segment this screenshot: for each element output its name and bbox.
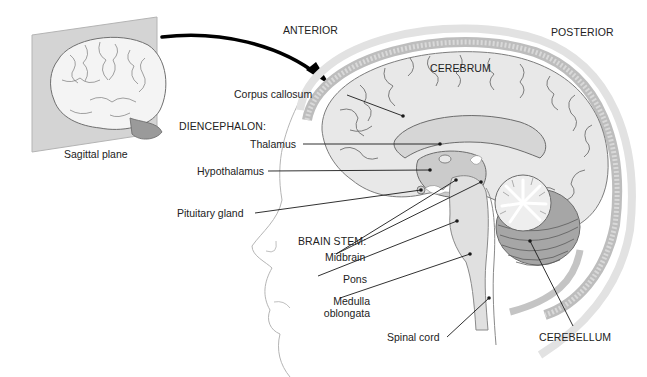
label-thalamus: Thalamus: [250, 138, 296, 150]
label-cerebellum: CEREBELLUM: [539, 331, 611, 343]
label-cerebrum: CEREBRUM: [430, 62, 491, 74]
nostril: [266, 241, 276, 252]
label-hypothalamus: Hypothalamus: [197, 165, 264, 177]
label-sagittal-plane: Sagittal plane: [64, 148, 128, 160]
diagram-artwork: [0, 0, 647, 377]
thalamus-adhesion: [439, 155, 451, 163]
whole-brain-icon: [51, 37, 166, 129]
label-brain-stem: BRAIN STEM:: [298, 235, 366, 247]
label-medulla: Medulla oblongata: [328, 295, 370, 319]
sagittal-plane-inset: [32, 17, 166, 152]
label-diencephalon: DIENCEPHALON:: [179, 120, 266, 132]
label-pons: Pons: [343, 273, 367, 285]
label-spinal-cord: Spinal cord: [387, 331, 440, 343]
label-corpus-callosum: Corpus callosum: [234, 88, 312, 100]
label-pituitary-gland: Pituitary gland: [177, 207, 244, 219]
label-anterior: ANTERIOR: [283, 24, 338, 36]
label-medulla-line1: Medulla: [328, 295, 370, 307]
label-medulla-line2: oblongata: [322, 307, 370, 319]
direction-arrow: [162, 35, 330, 85]
leader-pituitary: [255, 190, 421, 213]
leader-pons: [318, 221, 457, 276]
label-midbrain: Midbrain: [325, 251, 365, 263]
label-posterior: POSTERIOR: [551, 26, 614, 38]
lips: [274, 302, 290, 308]
brain-sagittal-diagram: Sagittal plane ANTERIOR POSTERIOR CEREBR…: [0, 0, 647, 377]
